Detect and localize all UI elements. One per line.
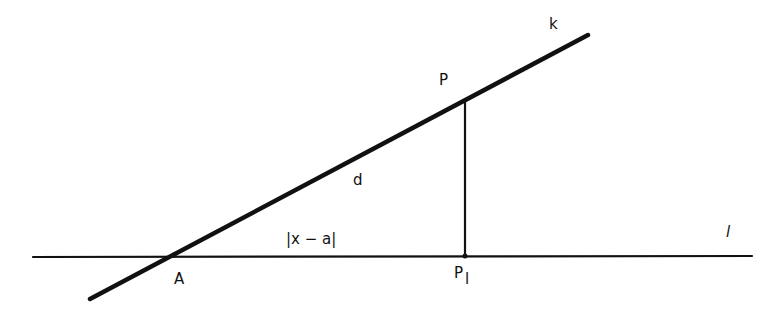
- point-p-l: [463, 254, 468, 259]
- line-k: [90, 35, 588, 299]
- label-p-l: Pl: [454, 266, 469, 281]
- label-p-l-main: P: [454, 264, 463, 282]
- label-p-l-subscript: l: [465, 270, 469, 288]
- label-p: P: [439, 73, 448, 88]
- label-l: l: [726, 225, 730, 240]
- label-d: d: [353, 173, 363, 188]
- label-a: A: [174, 272, 184, 287]
- line-l: [33, 256, 752, 257]
- point-a: [172, 253, 177, 258]
- label-abs-x-minus-a: |x − a|: [286, 232, 336, 247]
- diagram-canvas: k P d |x − a| l A Pl: [0, 0, 774, 313]
- diagram-svg: [0, 0, 774, 313]
- label-k: k: [549, 17, 558, 32]
